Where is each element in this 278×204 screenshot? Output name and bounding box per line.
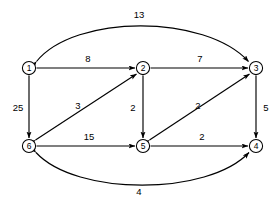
edge-weight-6-4: 4 [136, 186, 141, 197]
edge-weight-5-4: 2 [199, 131, 204, 142]
edge-weight-2-5: 2 [130, 102, 135, 113]
graph-diagram: 13 8 7 25 3 2 2 5 15 2 4 1 2 3 [0, 0, 278, 204]
edge-weight-1-3: 13 [134, 9, 145, 20]
node-2[interactable]: 2 [136, 61, 149, 74]
node-5[interactable]: 5 [136, 139, 149, 152]
edge-6-4 [36, 153, 249, 186]
node-6[interactable]: 6 [22, 139, 35, 152]
node-4[interactable]: 4 [249, 139, 262, 152]
node-5-label: 5 [141, 141, 146, 151]
edge-weight-1-6: 25 [13, 102, 24, 113]
edge-weight-2-3: 7 [197, 53, 202, 64]
edge-1-3 [37, 26, 249, 62]
node-3[interactable]: 3 [249, 61, 262, 74]
edges-layer [29, 26, 256, 185]
node-6-label: 6 [27, 141, 32, 151]
edge-weight-6-5: 15 [84, 131, 95, 142]
node-2-label: 2 [141, 63, 146, 73]
graph-canvas: 13 8 7 25 3 2 2 5 15 2 4 1 2 3 [0, 0, 278, 204]
edge-weight-5-3: 2 [195, 100, 200, 111]
edge-weight-6-2: 3 [75, 100, 80, 111]
node-1[interactable]: 1 [22, 61, 35, 74]
edge-weight-1-2: 8 [85, 53, 90, 64]
node-4-label: 4 [254, 141, 259, 151]
edge-weights-layer: 13 8 7 25 3 2 2 5 15 2 4 [13, 9, 269, 197]
edge-weight-3-4: 5 [263, 102, 268, 113]
node-3-label: 3 [254, 63, 259, 73]
node-1-label: 1 [27, 63, 32, 73]
